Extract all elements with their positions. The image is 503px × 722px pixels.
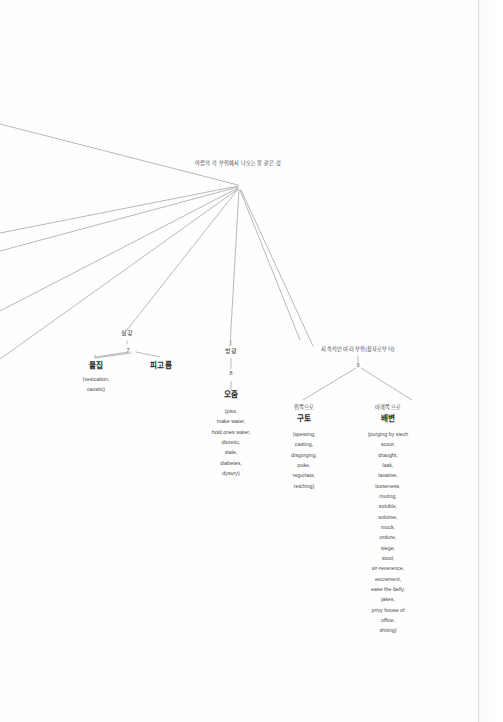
gloss-list-defecation: (purging by siech scour, draught, lask, … <box>352 429 424 636</box>
gloss-item: looseness, <box>352 481 424 491</box>
gloss-item: stool, <box>352 553 424 563</box>
gloss-item: scour, <box>352 439 424 449</box>
edge-root-to-bladder <box>230 190 239 346</box>
gloss-item: regurtate, <box>272 470 336 480</box>
gloss-item: laxative, <box>352 470 424 480</box>
edge-skin-to-node7-left <box>95 353 131 358</box>
edge-root-offpage-2 <box>0 186 238 233</box>
gloss-item: caustic) <box>64 384 128 394</box>
gloss-item: ordure, <box>352 532 424 542</box>
gloss-item: excrement, <box>352 574 424 584</box>
gloss-item: puke, <box>272 460 336 470</box>
gloss-item: retching) <box>272 481 336 491</box>
gloss-item: draught, <box>352 450 424 460</box>
gloss-item: jakes, <box>352 594 424 604</box>
leaf-label-defecation: 배변 <box>365 415 411 424</box>
gloss-item: disgorging, <box>272 450 336 460</box>
category-label-continuous: 지속적인 여러 부위(창자로부터) <box>297 347 419 353</box>
leaf-label-vomit: 구토 <box>281 415 327 424</box>
direction-label-downward: 아래쪽으로 <box>361 405 415 411</box>
category-label-skin: 살갗 <box>107 329 147 336</box>
gloss-item: muck, <box>352 522 424 532</box>
edge-node7-right-branch <box>136 352 160 357</box>
direction-label-upward: 위쪽으로 <box>279 405 329 411</box>
node-number-9: 9 <box>350 362 366 368</box>
edge-root-to-continuous <box>240 190 300 340</box>
edge-root-to-continuous-2 <box>241 190 313 346</box>
gloss-item: diuretic, <box>194 437 268 447</box>
gloss-item: (spewing, <box>272 429 336 439</box>
gloss-item: ease the belly, <box>352 584 424 594</box>
gloss-item: stale, <box>194 447 268 457</box>
node-number-8: 8 <box>222 370 240 376</box>
root-node-label: 마렵의 각 부위에서 나오는 물 같은 것 <box>185 161 291 167</box>
gloss-item: diabetes, <box>194 458 268 468</box>
edge-root-to-skin <box>127 189 238 330</box>
gloss-item: dysury) <box>194 468 268 478</box>
gloss-item: lask, <box>352 460 424 470</box>
gloss-item: (piss, <box>194 406 268 416</box>
gloss-item: soluble, <box>352 501 424 511</box>
leaf-label-pus: 피고름 <box>136 362 186 371</box>
edge-node9-to-vomit <box>303 368 356 400</box>
gloss-item: hold ones water, <box>194 427 268 437</box>
node-number-7: 7 <box>118 347 138 353</box>
gloss-item: office, <box>352 615 424 625</box>
gloss-item: shiting) <box>352 625 424 635</box>
gloss-item: (vesication, <box>64 374 128 384</box>
gloss-list-urine: (piss, make water, hold ones water, diur… <box>194 406 268 478</box>
gloss-list-blister: (vesication, caustic) <box>64 374 128 395</box>
edge-root-offpage-3 <box>0 187 238 251</box>
leaf-label-urine: 오줌 <box>208 391 254 400</box>
leaf-label-blister: 물집 <box>72 362 120 371</box>
edge-root-offpage-4 <box>0 188 238 311</box>
edge-root-offpage-1 <box>0 124 238 185</box>
gloss-item: casting, <box>272 439 336 449</box>
gloss-item: (purging by siech <box>352 429 424 439</box>
gloss-item: solutive, <box>352 512 424 522</box>
gloss-list-vomit: (spewing, casting, disgorging, puke, reg… <box>272 429 336 491</box>
gloss-item: sir-reverence, <box>352 563 424 573</box>
gloss-item: privy house of <box>352 605 424 615</box>
edge-node9-to-stool <box>361 368 412 400</box>
category-label-bladder: 방광 <box>212 347 250 354</box>
diagram-edges <box>0 0 503 722</box>
gloss-item: siege, <box>352 543 424 553</box>
gloss-item: make water, <box>194 416 268 426</box>
gloss-item: muting, <box>352 491 424 501</box>
